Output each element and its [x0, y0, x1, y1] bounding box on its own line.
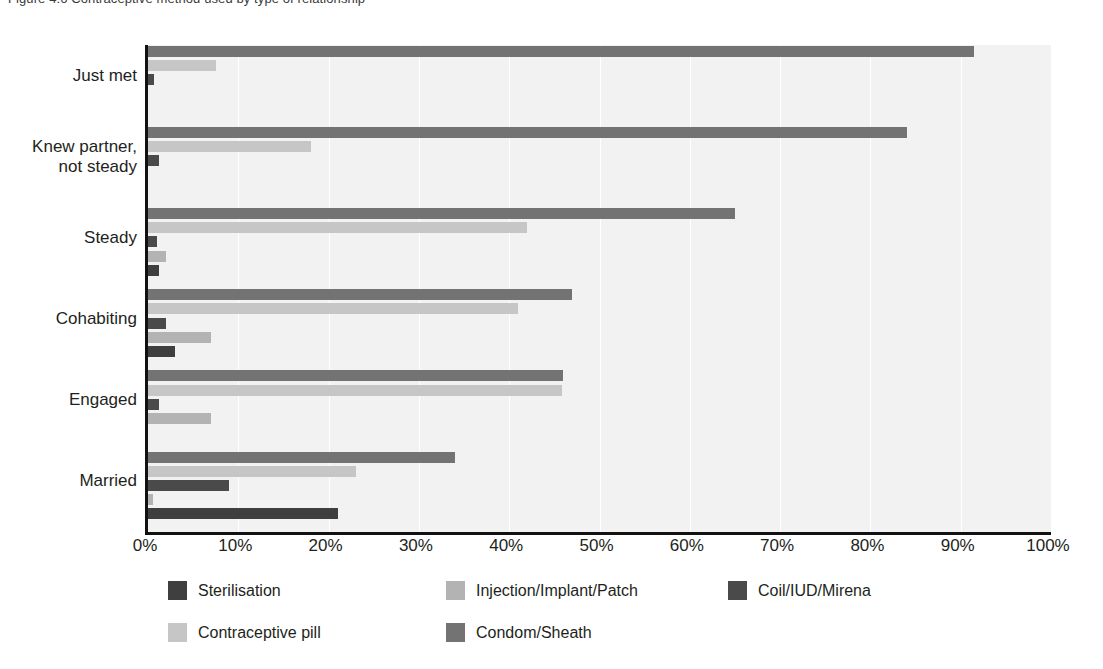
- bar: [148, 370, 563, 381]
- bar: [148, 494, 153, 505]
- bar: [148, 236, 157, 247]
- legend-label: Coil/IUD/Mirena: [758, 582, 871, 600]
- bar: [148, 60, 216, 71]
- y-axis-label: Steady: [0, 228, 137, 248]
- plot-area: [145, 45, 1051, 535]
- x-axis-tick-50%: 50%: [579, 536, 613, 556]
- bar: [148, 208, 735, 219]
- legend-label: Sterilisation: [198, 582, 281, 600]
- y-axis-label: Engaged: [0, 390, 137, 410]
- legend-swatch-icon: [446, 581, 465, 600]
- bar: [148, 466, 356, 477]
- y-axis-label-line: Cohabiting: [0, 309, 137, 329]
- legend-item[interactable]: Coil/IUD/Mirena: [728, 581, 871, 600]
- y-axis-labels: Just metKnew partner,not steadySteadyCoh…: [0, 45, 137, 532]
- legend-swatch-icon: [728, 581, 747, 600]
- bar: [148, 385, 562, 396]
- bar: [148, 332, 211, 343]
- chart-page: Figure 4.6 Contraceptive method used by …: [0, 0, 1103, 669]
- y-axis-label-line: Married: [0, 471, 137, 491]
- x-axis-tick-90%: 90%: [941, 536, 975, 556]
- bar: [148, 127, 907, 138]
- bar: [148, 222, 527, 233]
- bar: [148, 399, 159, 410]
- bar: [148, 155, 159, 166]
- bar: [148, 251, 166, 262]
- legend-label: Contraceptive pill: [198, 624, 321, 642]
- y-axis-label: Married: [0, 471, 137, 491]
- bar-group: [148, 127, 1051, 195]
- bar: [148, 452, 455, 463]
- bar: [148, 289, 572, 300]
- bar: [148, 74, 154, 85]
- bar-group: [148, 46, 1051, 114]
- legend-label: Injection/Implant/Patch: [476, 582, 638, 600]
- legend-swatch-icon: [168, 623, 187, 642]
- y-axis-label-line: Knew partner,: [0, 137, 137, 157]
- x-axis-tick-60%: 60%: [670, 536, 704, 556]
- bar: [148, 346, 175, 357]
- x-axis-tick-0%: 0%: [133, 536, 158, 556]
- y-axis-label: Cohabiting: [0, 309, 137, 329]
- y-axis-label-line: not steady: [0, 157, 137, 177]
- chart-legend: SterilisationInjection/Implant/PatchCoil…: [168, 581, 1028, 661]
- x-axis-tick-100%: 100%: [1026, 536, 1069, 556]
- figure-caption: Figure 4.6 Contraceptive method used by …: [8, 0, 365, 6]
- x-axis-tick-30%: 30%: [399, 536, 433, 556]
- legend-item[interactable]: Injection/Implant/Patch: [446, 581, 638, 600]
- bar: [148, 413, 211, 424]
- bar-group: [148, 289, 1051, 357]
- y-axis-label: Knew partner,not steady: [0, 137, 137, 177]
- legend-label: Condom/Sheath: [476, 624, 592, 642]
- bar-group: [148, 370, 1051, 438]
- y-axis-label: Just met: [0, 66, 137, 86]
- y-axis-label-line: Just met: [0, 66, 137, 86]
- bar-groups: [148, 45, 1051, 532]
- x-axis-tick-80%: 80%: [850, 536, 884, 556]
- x-axis-tick-10%: 10%: [218, 536, 252, 556]
- bar-group: [148, 452, 1051, 520]
- y-axis-label-line: Engaged: [0, 390, 137, 410]
- bar: [148, 46, 974, 57]
- x-axis-tick-labels: 0%10%20%30%40%50%60%70%80%90%100%: [0, 536, 1103, 562]
- legend-item[interactable]: Contraceptive pill: [168, 623, 321, 642]
- bar: [148, 303, 518, 314]
- gridline-100%: [1051, 45, 1052, 532]
- y-axis-label-line: Steady: [0, 228, 137, 248]
- legend-item[interactable]: Sterilisation: [168, 581, 281, 600]
- legend-swatch-icon: [168, 581, 187, 600]
- x-axis-tick-40%: 40%: [489, 536, 523, 556]
- x-axis-tick-70%: 70%: [760, 536, 794, 556]
- bar: [148, 318, 166, 329]
- bar: [148, 480, 229, 491]
- bar: [148, 141, 311, 152]
- bar-group: [148, 208, 1051, 276]
- bar: [148, 265, 159, 276]
- legend-item[interactable]: Condom/Sheath: [446, 623, 592, 642]
- legend-swatch-icon: [446, 623, 465, 642]
- x-axis-tick-20%: 20%: [309, 536, 343, 556]
- bar: [148, 508, 338, 519]
